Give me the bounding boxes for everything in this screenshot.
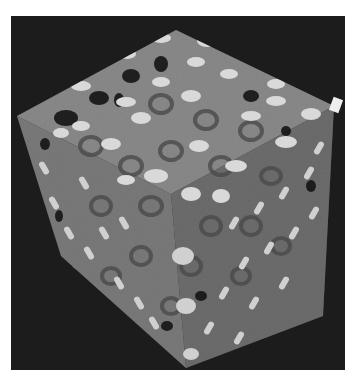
cube-body <box>17 30 334 368</box>
render-frame <box>11 16 345 370</box>
lattice-cube-render <box>11 16 345 370</box>
